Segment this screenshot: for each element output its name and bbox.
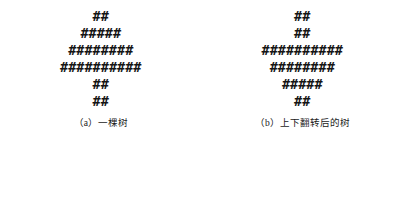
ascii-row: ######## [270, 59, 335, 76]
ascii-row: ######## [68, 42, 133, 59]
figure-caption-a-label: （a）一棵树 [74, 118, 128, 128]
ascii-art-tree-upright: ## ##### ######## ########## ## ## [60, 8, 141, 110]
ascii-row: ## [294, 93, 310, 110]
ascii-row: ## [93, 8, 109, 25]
ascii-row: ## [294, 25, 310, 42]
ascii-row: ##### [282, 76, 323, 93]
figure-pair: ## ##### ######## ########## ## ## （a）一棵… [0, 0, 403, 201]
ascii-row: ########## [60, 59, 141, 76]
figure-caption-b: （b）上下翻转后的树 [255, 117, 350, 129]
ascii-row: ########## [262, 42, 343, 59]
figure-caption-a: （a）一棵树 [74, 117, 128, 129]
ascii-row: ## [294, 8, 310, 25]
ascii-row: ## [93, 76, 109, 93]
ascii-row: ## [93, 93, 109, 110]
figure-caption-b-label: （b）上下翻转后的树 [255, 118, 350, 128]
figure-tree-upright: ## ##### ######## ########## ## ## （a）一棵… [0, 0, 202, 201]
ascii-art-tree-flipped: ## ## ########## ######## ##### ## [262, 8, 343, 110]
figure-tree-flipped: ## ## ########## ######## ##### ## （b）上下… [202, 0, 403, 201]
ascii-row: ##### [80, 25, 121, 42]
